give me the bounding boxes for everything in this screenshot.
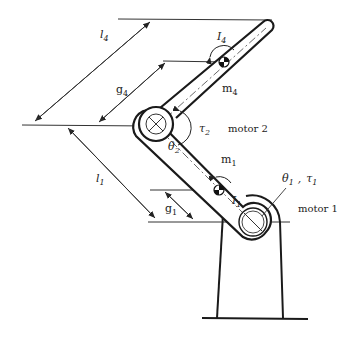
theta1-leader-line	[262, 188, 286, 216]
label-theta1-tau1: θ1,τ1	[282, 172, 317, 187]
label-m4: m4	[222, 82, 238, 97]
elbow-joint	[139, 107, 173, 141]
robot-arm-diagram: l4 g4 I4 m4 τ2 motor 2 θ2 m1 l1 g1 I1 θ1…	[0, 0, 353, 340]
top-reference-line	[118, 19, 272, 20]
l4-arrow-upper	[35, 22, 150, 121]
label-l1: l1	[96, 172, 105, 187]
elbow-reference-line	[22, 125, 150, 126]
label-g1: g1	[165, 202, 177, 217]
label-motor-1: motor 1	[298, 203, 338, 214]
label-I1: I1	[231, 194, 241, 209]
link-2-centerline	[166, 28, 266, 118]
ground-line	[202, 318, 308, 319]
label-motor-2: motor 2	[228, 123, 268, 134]
tau2-rotation-arrow	[178, 111, 191, 145]
label-tau2: τ2	[199, 122, 210, 137]
label-m1: m1	[221, 153, 237, 168]
label-l4: l4	[100, 28, 109, 43]
label-I4: I4	[216, 30, 226, 45]
pedestal-right-leg	[280, 222, 283, 318]
label-g4: g4	[116, 83, 128, 98]
pedestal-left-leg	[217, 214, 223, 318]
